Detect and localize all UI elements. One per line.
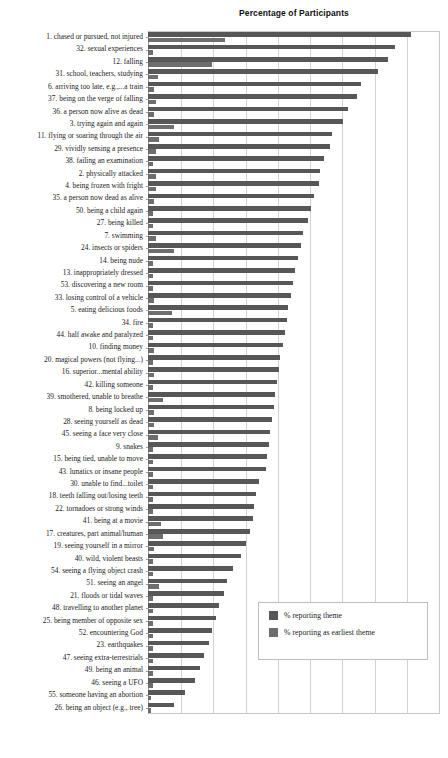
bar-row: 7. swimming bbox=[0, 230, 448, 242]
bar-reporting-earliest-theme bbox=[148, 621, 153, 626]
category-label: 16. superior...mental ability bbox=[0, 366, 146, 378]
row-bars bbox=[148, 689, 440, 701]
category-label: 7. swimming bbox=[0, 230, 146, 242]
bar-row: 19. seeing yourself in a mirror bbox=[0, 540, 448, 552]
bar-reporting-theme bbox=[148, 318, 287, 323]
bar-reporting-earliest-theme bbox=[148, 423, 154, 428]
axis-tick bbox=[146, 360, 148, 361]
row-bars bbox=[148, 143, 440, 155]
bar-row: 13. inappropriately dressed bbox=[0, 267, 448, 279]
category-label: 27. being killed bbox=[0, 217, 146, 229]
bar-reporting-theme bbox=[148, 603, 219, 608]
bar-reporting-earliest-theme bbox=[148, 112, 154, 117]
category-label: 39. smothered, unable to breathe bbox=[0, 391, 146, 403]
bar-reporting-earliest-theme bbox=[148, 509, 153, 514]
row-bars bbox=[148, 354, 440, 366]
bar-reporting-earliest-theme bbox=[148, 261, 153, 266]
row-bars bbox=[148, 192, 440, 204]
bar-row: 17. creatures, part animal/human bbox=[0, 528, 448, 540]
bar-reporting-theme bbox=[148, 367, 279, 372]
axis-tick bbox=[146, 310, 148, 311]
bar-row: 12. falling bbox=[0, 56, 448, 68]
bar-row: 16. superior...mental ability bbox=[0, 366, 448, 378]
bar-reporting-theme bbox=[148, 181, 319, 186]
bar-reporting-earliest-theme bbox=[148, 522, 161, 527]
bar-reporting-theme bbox=[148, 579, 227, 584]
bar-row: 42. killing someone bbox=[0, 379, 448, 391]
axis-tick bbox=[146, 459, 148, 460]
bar-row: 39. smothered, unable to breathe bbox=[0, 391, 448, 403]
bar-reporting-theme bbox=[148, 281, 293, 286]
axis-tick bbox=[146, 174, 148, 175]
bar-reporting-earliest-theme bbox=[148, 100, 156, 105]
category-label: 10. finding money bbox=[0, 341, 146, 353]
bar-row: 26. being an object (e.g., tree) bbox=[0, 702, 448, 714]
axis-tick bbox=[146, 397, 148, 398]
bar-row: 24. insects or spiders bbox=[0, 242, 448, 254]
bar-reporting-earliest-theme bbox=[148, 162, 153, 167]
bar-reporting-theme bbox=[148, 305, 288, 310]
bar-reporting-theme bbox=[148, 169, 320, 174]
row-bars bbox=[148, 677, 440, 689]
category-label: 2. physically attacked bbox=[0, 168, 146, 180]
bar-row: 50. being a child again bbox=[0, 205, 448, 217]
axis-tick bbox=[146, 149, 148, 150]
bar-row: 34. fire bbox=[0, 317, 448, 329]
bar-reporting-theme bbox=[148, 392, 275, 397]
axis-tick bbox=[146, 447, 148, 448]
bar-reporting-theme bbox=[148, 107, 348, 112]
bar-row: 1. chased or pursued, not injured bbox=[0, 31, 448, 43]
bar-row: 51. seeing an angel bbox=[0, 577, 448, 589]
category-label: 35. a person now dead as alive bbox=[0, 192, 146, 204]
bar-reporting-earliest-theme bbox=[148, 50, 153, 55]
bar-row: 41. being at a movie bbox=[0, 515, 448, 527]
axis-tick bbox=[146, 199, 148, 200]
bar-row: 5. eating delicious foods bbox=[0, 304, 448, 316]
bar-reporting-theme bbox=[148, 194, 314, 199]
bar-reporting-theme bbox=[148, 32, 411, 37]
bar-row: 45. seeing a face very close bbox=[0, 428, 448, 440]
bar-reporting-earliest-theme bbox=[148, 62, 212, 67]
bar-reporting-theme bbox=[148, 492, 256, 497]
bar-reporting-earliest-theme bbox=[148, 199, 154, 204]
legend-swatch-icon bbox=[269, 628, 278, 637]
axis-tick bbox=[146, 261, 148, 262]
bar-reporting-earliest-theme bbox=[148, 683, 153, 688]
category-label: 29. vividly sensing a presence bbox=[0, 143, 146, 155]
bar-row: 2. physically attacked bbox=[0, 168, 448, 180]
category-label: 50. being a child again bbox=[0, 205, 146, 217]
bar-reporting-theme bbox=[148, 94, 357, 99]
bar-row: 40. wild, violent beasts bbox=[0, 553, 448, 565]
row-bars bbox=[148, 540, 440, 552]
row-bars bbox=[148, 168, 440, 180]
axis-tick bbox=[146, 683, 148, 684]
category-label: 1. chased or pursued, not injured bbox=[0, 31, 146, 43]
bar-row: 54. seeing a flying object crash bbox=[0, 565, 448, 577]
axis-tick bbox=[146, 273, 148, 274]
category-label: 42. killing someone bbox=[0, 379, 146, 391]
bar-reporting-theme bbox=[148, 355, 280, 360]
row-bars bbox=[148, 565, 440, 577]
bar-reporting-earliest-theme bbox=[148, 311, 172, 316]
bar-reporting-earliest-theme bbox=[148, 236, 156, 241]
row-bars bbox=[148, 56, 440, 68]
axis-tick bbox=[146, 695, 148, 696]
bar-row: 55. someone having an abortion bbox=[0, 689, 448, 701]
bar-reporting-theme bbox=[148, 218, 308, 223]
bar-reporting-theme bbox=[148, 330, 285, 335]
bar-reporting-theme bbox=[148, 132, 332, 137]
bar-reporting-earliest-theme bbox=[148, 125, 174, 130]
bar-row: 15. being tied, unable to move bbox=[0, 453, 448, 465]
bar-reporting-theme bbox=[148, 293, 291, 298]
category-label: 8. being locked up bbox=[0, 404, 146, 416]
bar-reporting-theme bbox=[148, 628, 212, 633]
category-label: 14. being nude bbox=[0, 255, 146, 267]
bar-reporting-theme bbox=[148, 442, 269, 447]
axis-tick bbox=[146, 621, 148, 622]
bar-reporting-theme bbox=[148, 82, 361, 87]
bar-reporting-theme bbox=[148, 343, 283, 348]
bar-row: 20. magical powers (not flying...) bbox=[0, 354, 448, 366]
bar-reporting-earliest-theme bbox=[148, 274, 153, 279]
bar-row: 22. tornadoes or strong winds bbox=[0, 503, 448, 515]
row-bars bbox=[148, 242, 440, 254]
